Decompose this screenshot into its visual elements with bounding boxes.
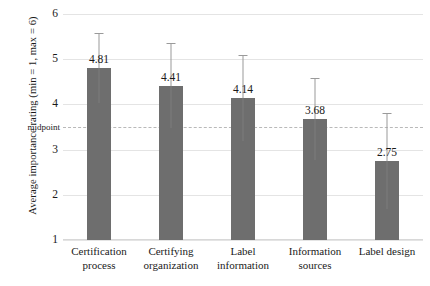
bar-value-label: 4.14 bbox=[233, 84, 253, 96]
error-bar-cap bbox=[311, 78, 320, 79]
error-bar-lower bbox=[315, 119, 316, 160]
y-axis-tick-label: 2 bbox=[34, 189, 58, 201]
midpoint-label: midpoint bbox=[20, 122, 60, 132]
error-bar-lower bbox=[99, 68, 100, 103]
error-bar-cap bbox=[239, 55, 248, 56]
error-bar-lower bbox=[387, 161, 388, 209]
y-axis-tick-label: 4 bbox=[34, 99, 58, 111]
y-axis-tick-label: 3 bbox=[34, 144, 58, 156]
bar-value-label: 4.81 bbox=[89, 54, 109, 66]
error-bar-cap bbox=[167, 43, 176, 44]
error-bar-lower bbox=[243, 98, 244, 141]
bar-value-label: 4.41 bbox=[161, 72, 181, 84]
error-bar-cap bbox=[383, 113, 392, 114]
error-bar-cap bbox=[95, 33, 104, 34]
bar-chart: Average importance rating (min = 1, max … bbox=[0, 0, 430, 286]
x-axis-category-labels: CertificationprocessCertifyingorganizati… bbox=[63, 244, 423, 284]
error-bar-lower bbox=[171, 86, 172, 128]
gridline bbox=[63, 14, 423, 15]
bar-value-label: 3.68 bbox=[305, 105, 325, 117]
gridline bbox=[63, 240, 423, 241]
x-axis-category-label: Label design bbox=[337, 244, 430, 258]
plot-area: 4.814.414.143.682.75 bbox=[63, 14, 423, 240]
bar-value-label: 2.75 bbox=[377, 147, 397, 159]
y-axis-tick-label: 6 bbox=[34, 8, 58, 20]
y-axis-tick-label: 5 bbox=[34, 53, 58, 65]
